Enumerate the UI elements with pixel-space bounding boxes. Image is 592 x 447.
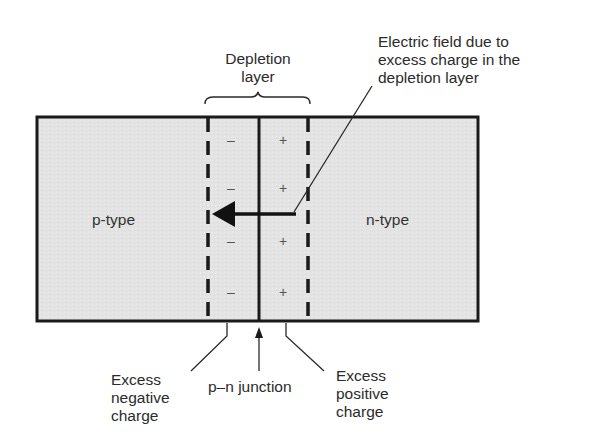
excess-negative-line2: negative — [111, 389, 170, 407]
excess-positive-line1: Excess — [336, 367, 389, 385]
depletion-layer-label: Depletion layer — [208, 50, 308, 86]
pn-junction-label-text: p–n junction — [208, 378, 292, 396]
excess-positive-charge-label: Excess positive charge — [336, 367, 389, 421]
negative-charge-icon: – — [221, 132, 241, 148]
excess-negative-charge-label: Excess negative charge — [111, 371, 170, 425]
positive-charge-leader-line — [286, 323, 324, 371]
n-type-label: n-type — [366, 211, 409, 229]
excess-negative-line3: charge — [111, 407, 170, 425]
junction-pointer-arrow-icon — [255, 327, 263, 371]
positive-charge-icon: + — [273, 233, 293, 249]
positive-charge-icon: + — [273, 180, 293, 196]
electric-field-label-line2: excess charge in the — [378, 51, 520, 69]
electric-field-label-line3: depletion layer — [378, 69, 520, 87]
electric-field-label: Electric field due to excess charge in t… — [378, 33, 520, 87]
negative-charge-leader-line — [191, 323, 227, 371]
excess-positive-line2: positive — [336, 385, 389, 403]
negative-charge-icon: – — [221, 284, 241, 300]
depletion-label-line1: Depletion — [208, 50, 308, 68]
p-type-label: p-type — [92, 211, 135, 229]
depletion-brace-icon — [205, 92, 310, 104]
pn-junction-label: p–n junction — [208, 378, 292, 396]
positive-charge-icon: + — [273, 284, 293, 300]
positive-charge-icon: + — [273, 132, 293, 148]
depletion-label-line2: layer — [208, 68, 308, 86]
excess-positive-line3: charge — [336, 403, 389, 421]
negative-charge-icon: – — [221, 180, 241, 196]
pn-junction-diagram: Depletion layer Electric field due to ex… — [0, 0, 592, 447]
electric-field-label-line1: Electric field due to — [378, 33, 520, 51]
excess-negative-line1: Excess — [111, 371, 170, 389]
negative-charge-icon: – — [221, 233, 241, 249]
